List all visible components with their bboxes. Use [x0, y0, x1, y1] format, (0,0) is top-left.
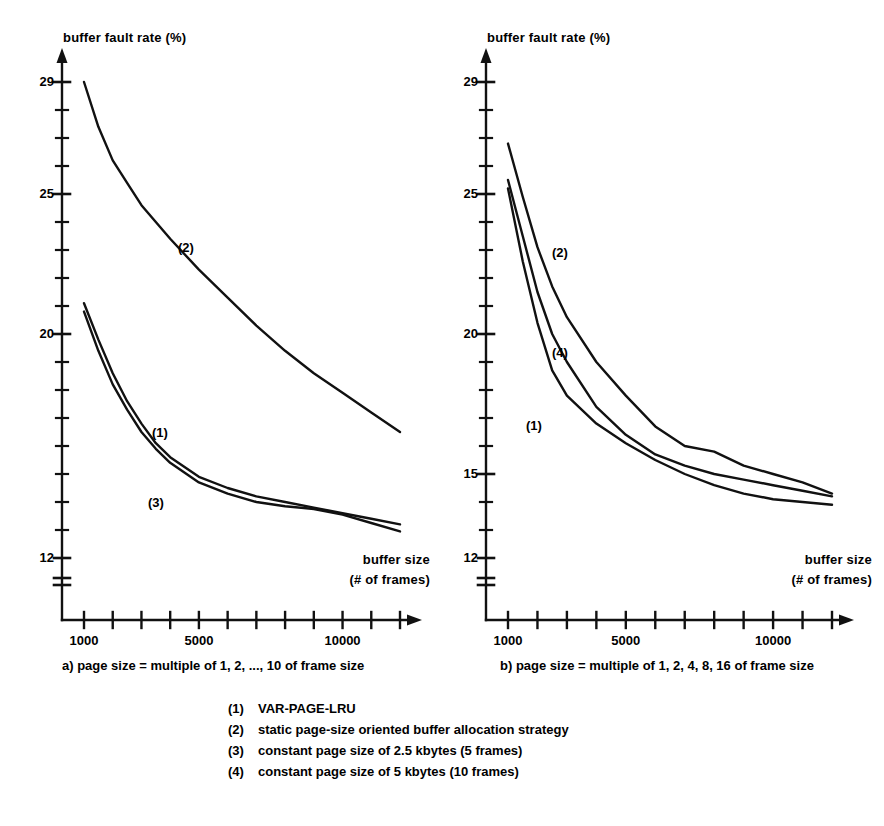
y-tick-b-25: 25 — [434, 186, 478, 201]
chart-panel-a: buffer fault rate (%) 12202529 100050001… — [0, 0, 442, 690]
legend-key-1: (2) — [228, 719, 258, 740]
y-tick-a-29: 29 — [10, 74, 54, 89]
y-tick-b-15: 15 — [434, 466, 478, 481]
curve-label-a-2: (2) — [178, 240, 194, 255]
x-axis-title-line1-b: buffer size — [697, 550, 872, 570]
curve-label-b-2: (2) — [552, 245, 568, 260]
y-tick-b-29: 29 — [434, 74, 478, 89]
caption-panel-b: b) page size = multiple of 1, 2, 4, 8, 1… — [500, 658, 814, 673]
curve-b-1 — [508, 180, 832, 496]
x-tick-b-5000: 5000 — [591, 633, 661, 648]
x-axis-title-a: buffer size (# of frames) — [255, 550, 430, 590]
legend-key-3: (4) — [228, 761, 258, 782]
x-axis-title-b: buffer size (# of frames) — [697, 550, 872, 590]
x-axis-title-line2-a: (# of frames) — [255, 570, 430, 590]
y-tick-b-12: 12 — [434, 550, 478, 565]
legend-text-1: static page-size oriented buffer allocat… — [258, 719, 569, 740]
y-tick-a-12: 12 — [10, 550, 54, 565]
x-axis-title-line2-b: (# of frames) — [697, 570, 872, 590]
legend-text-0: VAR-PAGE-LRU — [258, 698, 569, 719]
curve-label-b-4: (4) — [552, 345, 568, 360]
legend-row-4: (4)constant page size of 5 kbytes (10 fr… — [228, 761, 569, 782]
x-tick-a-10000: 10000 — [308, 633, 378, 648]
x-axis-title-line1-a: buffer size — [255, 550, 430, 570]
y-tick-b-20: 20 — [434, 326, 478, 341]
legend-row-1: (1)VAR-PAGE-LRU — [228, 698, 569, 719]
figure-legend: (1)VAR-PAGE-LRU(2)static page-size orien… — [228, 698, 569, 782]
caption-panel-a: a) page size = multiple of 1, 2, ..., 10… — [62, 658, 364, 673]
legend-row-2: (2)static page-size oriented buffer allo… — [228, 719, 569, 740]
chart-panels: buffer fault rate (%) 12202529 100050001… — [0, 0, 884, 690]
x-tick-a-1000: 1000 — [49, 633, 119, 648]
legend-text-3: constant page size of 5 kbytes (10 frame… — [258, 761, 569, 782]
curve-label-a-3: (3) — [148, 495, 164, 510]
curve-label-a-1: (1) — [152, 425, 168, 440]
x-tick-b-1000: 1000 — [473, 633, 543, 648]
legend-key-0: (1) — [228, 698, 258, 719]
x-tick-b-10000: 10000 — [738, 633, 808, 648]
y-tick-a-20: 20 — [10, 326, 54, 341]
figure-two-line-charts: buffer fault rate (%) 12202529 100050001… — [0, 0, 884, 826]
curve-a-2 — [84, 312, 400, 532]
chart-panel-b: buffer fault rate (%) 1215202529 1000500… — [442, 0, 884, 690]
legend-text-2: constant page size of 2.5 kbytes (5 fram… — [258, 740, 569, 761]
curve-a-0 — [84, 82, 400, 432]
x-tick-a-5000: 5000 — [164, 633, 234, 648]
curve-label-b-1: (1) — [526, 418, 542, 433]
curve-b-0 — [508, 144, 832, 494]
legend-key-2: (3) — [228, 740, 258, 761]
y-tick-a-25: 25 — [10, 186, 54, 201]
curve-a-1 — [84, 303, 400, 524]
legend-row-3: (3)constant page size of 2.5 kbytes (5 f… — [228, 740, 569, 761]
